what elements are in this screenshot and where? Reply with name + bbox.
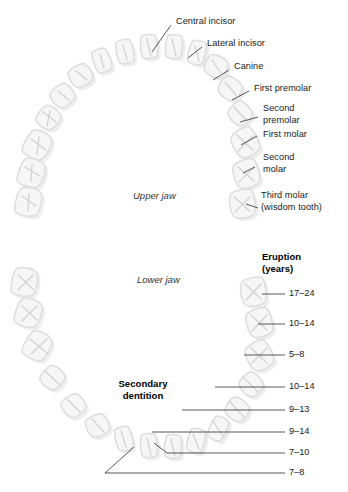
label-first-premolar: First premolar (254, 83, 311, 95)
eruption-value-second-premolar: 10–14 (289, 381, 315, 391)
eruption-value-lateral-incisor: 7–10 (289, 447, 309, 457)
label-canine: Canine (234, 61, 263, 73)
eruption-value-first-premolar: 9–13 (289, 404, 309, 414)
dental-arch-illustration (0, 0, 348, 492)
upper-leader-lines (152, 25, 258, 208)
label-second-molar: Second molar (263, 152, 294, 175)
eruption-value-second-molar: 10–14 (289, 318, 315, 328)
eruption-value-third-molar: 17–24 (289, 288, 315, 298)
label-second-premolar: Second premolar (263, 103, 300, 126)
secondary-dentition-label: Secondary dentition (88, 378, 198, 402)
lower-jaw-label: Lower jaw (137, 274, 180, 285)
eruption-value-first-molar: 5–8 (289, 349, 304, 359)
lower-arch-teeth (10, 266, 281, 462)
eruption-header: Eruption (years) (262, 251, 301, 275)
tooth-chart-figure: Central incisor Lateral incisor Canine F… (0, 0, 348, 492)
eruption-value-central-incisor: 7–8 (289, 467, 304, 477)
label-third-molar: Third molar (wisdom tooth) (261, 190, 322, 213)
eruption-value-canine: 9–14 (289, 426, 309, 436)
label-lateral-incisor: Lateral incisor (207, 38, 265, 50)
label-central-incisor: Central incisor (176, 16, 235, 28)
upper-jaw-label: Upper jaw (133, 190, 176, 201)
label-first-molar: First molar (263, 129, 307, 141)
